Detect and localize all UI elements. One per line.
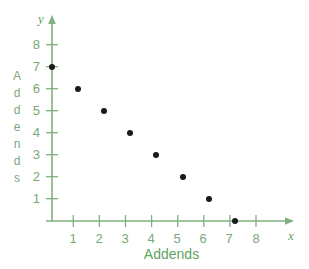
y-tick-label-5: 5 [26,104,40,117]
y-tick-label-3: 3 [26,148,40,161]
y-axis-title-letter-2: d [9,102,25,119]
data-point [180,174,186,180]
data-point [49,64,55,70]
y-axis-title-letter-6: s [9,170,25,187]
y-axis-letter: y [38,12,44,25]
y-axis-title: A d d e n d s [9,68,25,187]
y-tick-label-1: 1 [26,192,40,205]
y-axis-title-letter-4: n [9,136,25,153]
scatter-plot-figure: 8 7 6 5 4 3 2 1 1 2 3 4 5 6 7 8 y x A d … [0,0,309,269]
x-tick-label-3: 3 [118,232,132,245]
y-tick-label-4: 4 [26,126,40,139]
x-axis-letter: x [288,229,294,242]
x-tick-label-4: 4 [144,232,158,245]
x-tick-label-1: 1 [66,232,80,245]
y-tick-label-8: 8 [26,38,40,51]
y-axis-arrow [48,15,56,24]
x-axis-arrow [285,217,294,225]
y-axis-title-letter-5: d [9,153,25,170]
x-tick-label-2: 2 [92,232,106,245]
axes-group [0,0,309,269]
y-axis-title-letter-1: d [9,85,25,102]
x-tick-label-6: 6 [196,232,210,245]
y-axis-title-letter-0: A [9,68,25,85]
data-point [232,218,238,224]
y-tick-label-7: 7 [26,60,40,73]
data-point [206,196,212,202]
x-tick-label-8: 8 [249,232,263,245]
y-tick-label-2: 2 [26,170,40,183]
x-tick-label-7: 7 [222,232,236,245]
y-tick-label-6: 6 [26,82,40,95]
x-tick-label-5: 5 [170,232,184,245]
x-axis-title: Addends [0,247,309,261]
y-axis-title-letter-3: e [9,119,25,136]
